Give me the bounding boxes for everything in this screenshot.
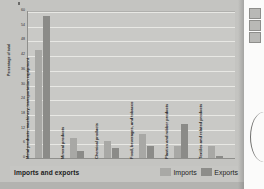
y-tick-label-18: 18: [10, 112, 25, 116]
y-tick-label-6: 6: [10, 141, 25, 145]
bar-imports-2: [104, 141, 111, 158]
y-tick-label-48: 48: [10, 38, 25, 42]
panel-icon-3[interactable]: [249, 32, 261, 43]
y-tick-label-36: 36: [10, 68, 25, 72]
bar-imports-3: [139, 134, 146, 159]
exports-swatch: [201, 168, 212, 176]
legend-label-exports: Exports: [214, 169, 238, 176]
bar-exports-1: [77, 151, 84, 158]
gridline-30: [27, 86, 235, 87]
bar-exports-0: [43, 16, 50, 158]
page-curl-arc: [250, 112, 264, 162]
bar-exports-3: [147, 146, 154, 158]
bar-imports-0: [35, 50, 42, 158]
y-tick-label-60: 60: [10, 9, 25, 13]
bar-exports-4: [181, 124, 188, 158]
y-tick-label-30: 30: [10, 82, 25, 86]
gridline-42: [27, 56, 235, 57]
bar-exports-5: [216, 156, 223, 158]
imports-swatch: [160, 168, 171, 176]
y-tick-label-0: 0: [10, 156, 25, 160]
category-label-1: Mineral products: [61, 127, 65, 159]
category-label-0: Metal products, machinery, transportatio…: [26, 58, 30, 159]
gridline-48: [27, 41, 235, 42]
y-axis-title: Percentage of total: [8, 28, 12, 92]
panel-icon-1[interactable]: [249, 8, 261, 19]
chart-caption-title: Imports and exports: [14, 170, 79, 177]
category-label-4: Plastics and rubber products: [165, 104, 169, 159]
category-label-2: Chemical products: [95, 123, 99, 159]
bar-imports-4: [174, 146, 181, 158]
y-tick-label-12: 12: [10, 127, 25, 131]
gridline-60: [27, 12, 235, 13]
y-tick-label-42: 42: [10, 53, 25, 57]
legend-label-imports: Imports: [173, 169, 196, 176]
side-panel: [244, 0, 264, 189]
bar-imports-1: [70, 138, 77, 158]
legend-item-imports: Imports: [160, 168, 197, 176]
gridline-54: [27, 27, 235, 28]
y-tick-label-24: 24: [10, 97, 25, 101]
chart-figure: 06121824303642485460 Percentage of total…: [0, 0, 244, 189]
category-label-5: Textiles and related products: [199, 104, 203, 159]
panel-icon-2[interactable]: [249, 20, 261, 31]
gridline-36: [27, 71, 235, 72]
bar-imports-5: [208, 146, 215, 158]
legend-item-exports: Exports: [201, 168, 238, 176]
category-label-3: Food, beverages, and tobacco: [130, 101, 134, 159]
chart-legend: Imports Exports: [160, 168, 238, 176]
y-tick-label-54: 54: [10, 24, 25, 28]
bar-exports-2: [112, 148, 119, 158]
page-bottom-edge: [0, 182, 244, 189]
